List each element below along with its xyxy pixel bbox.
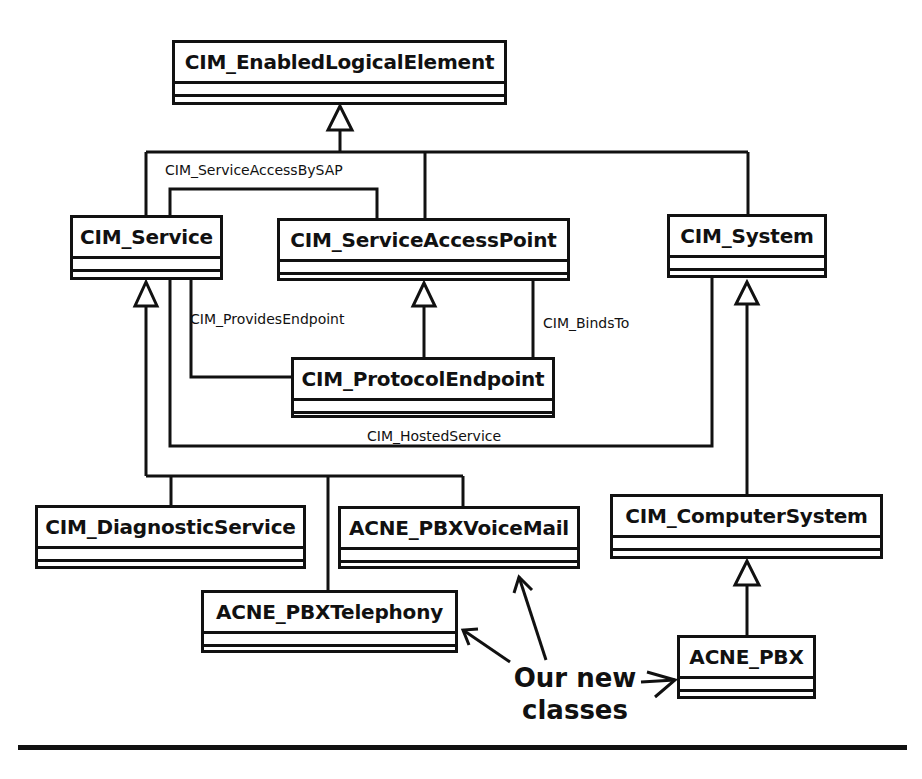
methods-compartment [670,268,824,281]
class-name: CIM_ComputerSystem [613,497,880,535]
callout-our-new-classes: Our new classes [500,662,650,726]
attributes-compartment [73,256,220,269]
class-cim-enabled-logical-element: CIM_EnabledLogicalElement [172,40,507,105]
attributes-compartment [680,676,813,689]
bottom-rule [18,745,907,750]
methods-compartment [294,411,552,424]
class-cim-computer-system: CIM_ComputerSystem [610,494,883,559]
class-cim-service: CIM_Service [70,215,223,280]
class-name: ACNE_PBXVoiceMail [341,509,577,547]
methods-compartment [38,559,303,572]
class-cim-service-access-point: CIM_ServiceAccessPoint [277,218,570,281]
class-acne-pbx-telephony: ACNE_PBXTelephony [201,590,458,653]
attributes-compartment [175,81,504,94]
attributes-compartment [670,255,824,268]
attributes-compartment [341,547,577,560]
class-name: CIM_ServiceAccessPoint [280,221,567,259]
class-name: CIM_ProtocolEndpoint [294,360,552,398]
methods-compartment [680,689,813,702]
class-name: CIM_DiagnosticService [38,508,303,546]
class-name: CIM_System [670,217,824,255]
association-label-hosted-service: CIM_HostedService [367,428,501,444]
class-acne-pbx-voicemail: ACNE_PBXVoiceMail [338,506,580,569]
class-cim-system: CIM_System [667,214,827,278]
methods-compartment [175,94,504,107]
class-name: ACNE_PBX [680,638,813,676]
class-name: CIM_Service [73,218,220,256]
attributes-compartment [294,398,552,411]
methods-compartment [613,548,880,561]
methods-compartment [341,560,577,573]
class-name: ACNE_PBXTelephony [204,593,455,631]
methods-compartment [204,644,455,657]
association-label-service-access-by-sap: CIM_ServiceAccessBySAP [165,162,343,178]
class-acne-pbx: ACNE_PBX [677,635,816,699]
callout-line-1: Our new [500,662,650,694]
class-cim-diagnostic-service: CIM_DiagnosticService [35,505,306,569]
callout-line-2: classes [500,694,650,726]
attributes-compartment [204,631,455,644]
class-cim-protocol-endpoint: CIM_ProtocolEndpoint [291,357,555,418]
attributes-compartment [38,546,303,559]
class-name: CIM_EnabledLogicalElement [175,43,504,81]
methods-compartment [280,272,567,285]
association-label-binds-to: CIM_BindsTo [543,315,629,331]
association-label-provides-endpoint: CIM_ProvidesEndpoint [190,311,344,327]
methods-compartment [73,269,220,282]
attributes-compartment [613,535,880,548]
attributes-compartment [280,259,567,272]
